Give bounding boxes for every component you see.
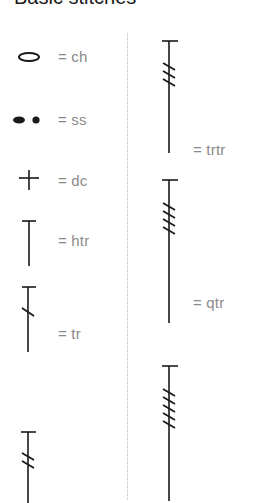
legend-label-ch: = ch bbox=[58, 49, 88, 65]
t-stitch-icon bbox=[20, 220, 38, 268]
t-four-slash-icon bbox=[161, 179, 181, 325]
plus-cross-icon bbox=[17, 169, 41, 191]
legend-label-tr: = tr bbox=[58, 326, 81, 342]
t-two-slash-icon bbox=[20, 431, 38, 503]
page-title: Basic stitches bbox=[14, 0, 136, 7]
t-three-slash-icon bbox=[161, 40, 181, 155]
legend-label-trtr: = trtr bbox=[193, 142, 225, 158]
t-one-slash-icon bbox=[20, 286, 38, 354]
legend-label-ss: = ss bbox=[58, 112, 87, 128]
chain-oval-icon bbox=[17, 51, 43, 63]
legend-label-qtr: = qtr bbox=[193, 295, 224, 311]
legend-label-htr: = htr bbox=[58, 233, 89, 249]
column-divider bbox=[127, 33, 128, 500]
slip-stitch-dots-icon bbox=[11, 114, 43, 126]
t-five-slash-icon bbox=[161, 365, 181, 501]
legend-label-dc: = dc bbox=[58, 173, 88, 189]
